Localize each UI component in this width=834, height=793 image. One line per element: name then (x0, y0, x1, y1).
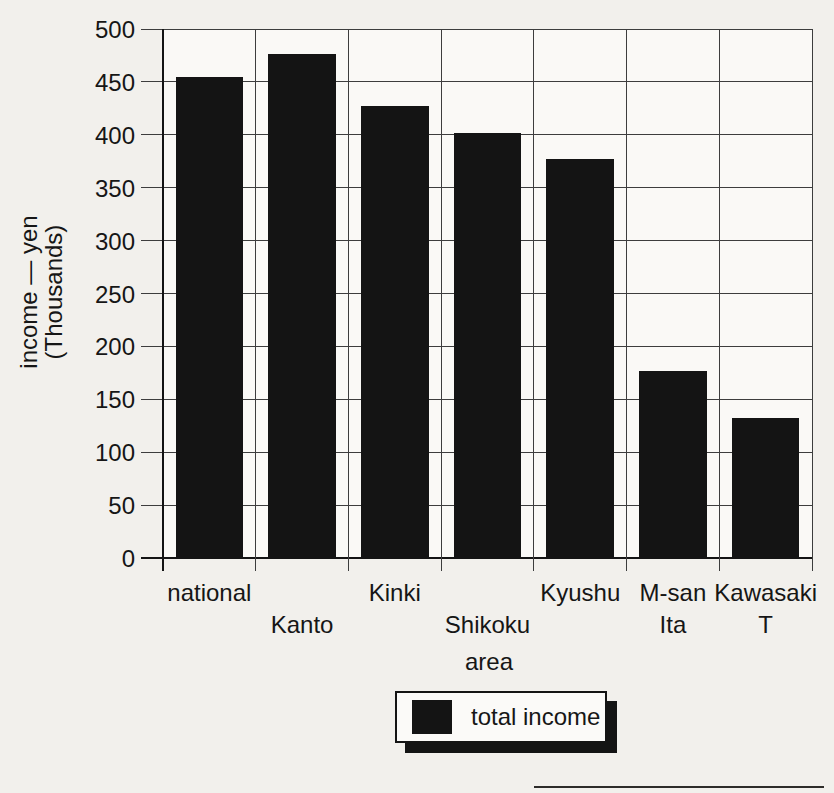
x-category-label: Kinki (369, 581, 421, 605)
x-category-label: Ita (660, 613, 687, 637)
y-tick-label: 350 (58, 177, 135, 201)
x-category-label: Kyushu (540, 581, 620, 605)
column-separator (348, 29, 349, 558)
y-axis-title-line1: income — yen (16, 192, 41, 392)
legend: total income (395, 691, 607, 743)
bar (732, 418, 800, 558)
column-separator (533, 29, 534, 558)
bar (361, 106, 429, 558)
bar (546, 159, 614, 558)
scan-artifact-line (534, 786, 824, 788)
x-axis-tick (812, 558, 813, 571)
y-tick-label: 200 (58, 335, 135, 359)
legend-swatch-icon (412, 700, 452, 734)
legend-label: total income (471, 703, 600, 731)
y-tick-label: 100 (58, 441, 135, 465)
x-axis-tick (533, 558, 534, 571)
bar (176, 77, 244, 558)
bar (268, 54, 336, 558)
y-tick-label: 400 (58, 124, 135, 148)
x-category-label: Kawasaki (714, 581, 817, 605)
y-tick-label: 50 (58, 494, 135, 518)
x-category-label: Shikoku (445, 613, 530, 637)
x-axis-tick (719, 558, 720, 571)
y-tick-label: 450 (58, 71, 135, 95)
x-category-label: national (167, 581, 251, 605)
y-tick-label: 500 (58, 18, 135, 42)
x-axis-tick (626, 558, 627, 571)
gridline (141, 29, 812, 30)
bar (639, 371, 707, 558)
y-axis-title: income — yen (Thousands) (16, 192, 66, 392)
y-tick-label: 300 (58, 230, 135, 254)
y-tick-label: 0 (58, 547, 135, 571)
x-axis-tick (441, 558, 442, 571)
x-axis-title: area (465, 648, 513, 676)
scanned-chart-page: 500450400350300250200150100500nationalKa… (0, 0, 834, 793)
bar-chart: 500450400350300250200150100500nationalKa… (0, 0, 834, 793)
column-separator (812, 29, 813, 558)
column-separator (255, 29, 256, 558)
y-axis-line (162, 29, 164, 571)
column-separator (441, 29, 442, 558)
column-separator (719, 29, 720, 558)
x-category-label: T (758, 613, 773, 637)
x-axis-tick (348, 558, 349, 571)
y-axis-title-line2: (Thousands) (41, 192, 66, 392)
x-category-label: Kanto (271, 613, 334, 637)
x-category-label: M-san (640, 581, 707, 605)
y-tick-label: 150 (58, 388, 135, 412)
x-axis-tick (255, 558, 256, 571)
bar (454, 133, 522, 558)
column-separator (626, 29, 627, 558)
y-tick-label: 250 (58, 283, 135, 307)
